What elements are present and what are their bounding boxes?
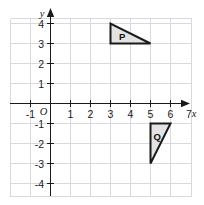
y-tick-label-2: 2 [38, 58, 44, 70]
origin-label: O [40, 106, 48, 117]
x-tick-label-4: 4 [128, 108, 134, 120]
y-tick-label--4: -4 [35, 178, 44, 190]
y-tick-label-3: 3 [38, 38, 44, 50]
y-tick-label--1: -1 [35, 118, 44, 130]
coordinate-graph-figure: -1 1 2 3 4 5 6 7 4 3 2 1 -1 -2 -3 -4 y x… [0, 0, 204, 205]
triangle-q-label: Q [154, 131, 161, 142]
y-axis-arrow [47, 8, 54, 17]
x-tick-label-1: 1 [68, 108, 74, 120]
y-tick-label-4: 4 [38, 18, 44, 30]
y-tick-label-1: 1 [38, 78, 44, 90]
x-tick-label-6: 6 [168, 108, 174, 120]
y-tick-label--3: -3 [35, 158, 44, 170]
y-tick-label--2: -2 [35, 138, 44, 150]
y-axis-label: y [39, 8, 45, 19]
x-axis-label: x [191, 108, 197, 119]
x-tick-label-3: 3 [108, 108, 114, 120]
triangle-p-label: P [119, 31, 126, 42]
x-tick-label-5: 5 [148, 108, 154, 120]
coordinate-plane-svg: -1 1 2 3 4 5 6 7 4 3 2 1 -1 -2 -3 -4 y x… [0, 0, 204, 205]
x-axis-arrow [181, 100, 190, 107]
x-tick-label-2: 2 [88, 108, 94, 120]
